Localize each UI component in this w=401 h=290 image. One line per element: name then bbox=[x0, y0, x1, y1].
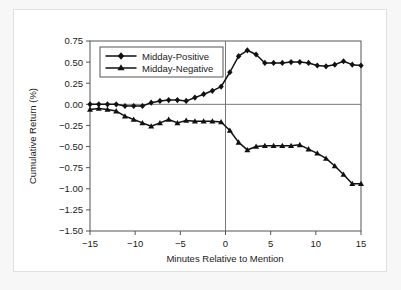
diamond-marker-icon bbox=[332, 62, 337, 68]
diamond-marker-icon bbox=[297, 59, 302, 65]
diamond-marker-icon bbox=[280, 60, 285, 66]
y-tick-label: 0.00 bbox=[65, 99, 84, 110]
y-tick-label: −0.25 bbox=[59, 120, 83, 131]
x-tick-label: 15 bbox=[356, 238, 367, 249]
diamond-marker-icon bbox=[350, 62, 355, 68]
cumulative-return-chart: 0.750.500.250.00−0.25−0.50−0.75−1.00−1.2… bbox=[14, 10, 388, 273]
diamond-marker-icon bbox=[323, 63, 328, 69]
y-tick-label: −0.50 bbox=[59, 141, 83, 152]
diamond-marker-icon bbox=[341, 58, 346, 64]
x-tick-label: 0 bbox=[223, 238, 228, 249]
y-tick-label: 0.75 bbox=[65, 35, 84, 46]
x-tick-label: −15 bbox=[82, 238, 98, 249]
y-axis-ticks: 0.750.500.250.00−0.25−0.50−0.75−1.00−1.2… bbox=[59, 35, 90, 236]
chart-legend[interactable]: Midday-Positive Midday-Negative bbox=[100, 47, 223, 77]
y-tick-label: −1.25 bbox=[59, 204, 83, 215]
legend-label-midday-positive: Midday-Positive bbox=[142, 51, 209, 62]
diamond-marker-icon bbox=[201, 91, 206, 97]
figure-container: 0.750.500.250.00−0.25−0.50−0.75−1.00−1.2… bbox=[0, 0, 401, 290]
diamond-marker-icon bbox=[183, 98, 188, 104]
diamond-marker-icon bbox=[210, 88, 215, 94]
diamond-marker-icon bbox=[192, 94, 197, 100]
triangle-marker-icon bbox=[166, 117, 172, 122]
diamond-marker-icon bbox=[288, 59, 293, 65]
x-tick-label: −10 bbox=[127, 238, 143, 249]
x-axis-title: Minutes Relative to Mention bbox=[166, 253, 283, 264]
diamond-marker-icon bbox=[358, 62, 363, 68]
x-tick-label: 10 bbox=[311, 238, 322, 249]
y-tick-label: −1.50 bbox=[59, 225, 83, 236]
diamond-marker-icon bbox=[166, 97, 171, 103]
x-tick-label: 5 bbox=[268, 238, 273, 249]
y-tick-label: −1.00 bbox=[59, 183, 83, 194]
legend-label-midday-negative: Midday-Negative bbox=[142, 63, 213, 74]
diamond-marker-icon bbox=[306, 60, 311, 66]
diamond-marker-icon bbox=[114, 101, 119, 107]
y-tick-label: 0.50 bbox=[65, 57, 84, 68]
diamond-marker-icon bbox=[315, 62, 320, 68]
chart-card: 0.750.500.250.00−0.25−0.50−0.75−1.00−1.2… bbox=[13, 9, 387, 272]
diamond-marker-icon bbox=[271, 60, 276, 66]
y-tick-label: 0.25 bbox=[65, 78, 84, 89]
diamond-marker-icon bbox=[175, 97, 180, 103]
diamond-marker-icon bbox=[157, 98, 162, 104]
y-axis-title: Cumulative Return (%) bbox=[27, 88, 38, 184]
y-tick-label: −0.75 bbox=[59, 162, 83, 173]
x-tick-label: −5 bbox=[175, 238, 186, 249]
x-axis-ticks: −15−10−5051015 bbox=[82, 231, 366, 249]
